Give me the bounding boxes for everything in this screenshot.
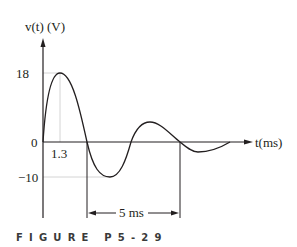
figure-canvas: v(t) (V) 18 0 −10 1.3 t(ms) 5 ms FIGURE … [0,0,297,247]
y-axis-label: v(t) (V) [25,19,65,34]
interval-label: 5 ms [119,205,144,220]
y-axis-arrow-icon [41,38,46,47]
arrow-right-icon [171,211,179,216]
y-tick-0: 0 [31,135,38,150]
figure-caption: FIGURE P5-29 [16,232,168,243]
y-tick-neg10: −10 [18,170,38,185]
voltage-curve [43,73,230,177]
x-axis-arrow-icon [244,140,253,145]
arrow-left-icon [88,211,96,216]
x-tick-1-3: 1.3 [51,146,67,161]
y-tick-18: 18 [16,66,29,81]
x-axis-label: t(ms) [255,135,282,150]
